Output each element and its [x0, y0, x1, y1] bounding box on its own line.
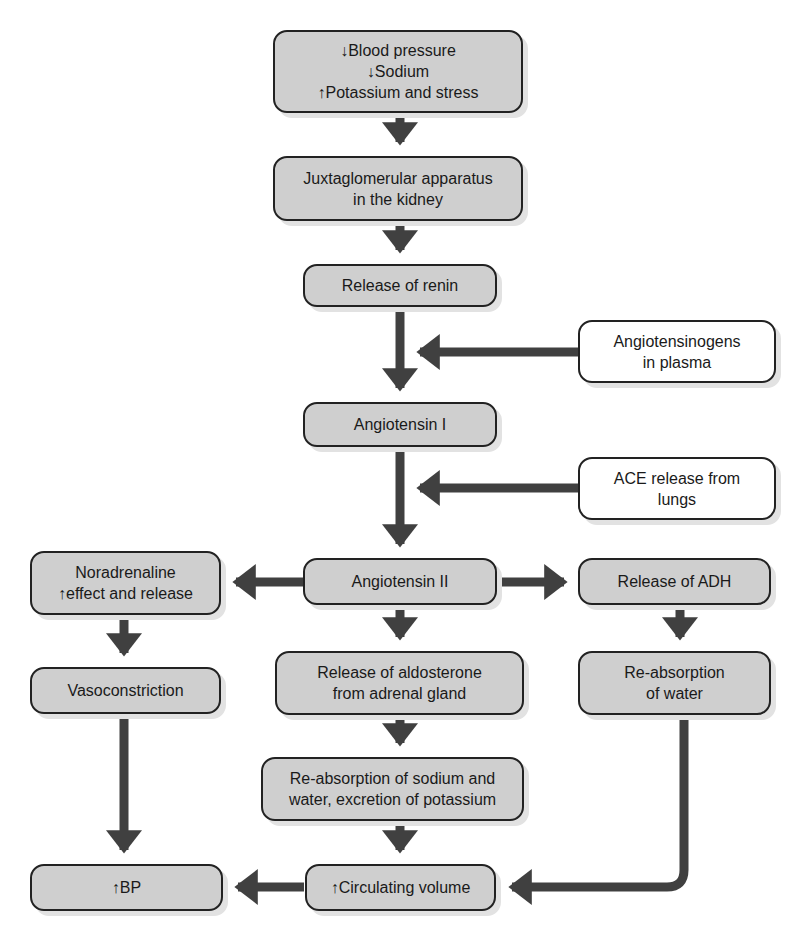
- node-bp: ↑BP: [30, 864, 223, 911]
- node-renin: Release of renin: [303, 264, 497, 307]
- node-angiotensin1: Angiotensin I: [303, 402, 497, 447]
- node-adh: Release of ADH: [578, 558, 771, 605]
- node-sodium-reabsorption: Re-absorption of sodium and water, excre…: [261, 757, 524, 821]
- node-label: Re-absorption of sodium and water, excre…: [289, 768, 496, 810]
- node-label: ACE release from lungs: [614, 468, 740, 510]
- node-label: Angiotensin II: [352, 571, 449, 592]
- node-juxtaglomerular: Juxtaglomerular apparatus in the kidney: [273, 156, 523, 221]
- node-circulating-volume: ↑Circulating volume: [305, 864, 496, 911]
- node-label: Re-absorption of water: [624, 662, 725, 704]
- node-label: Noradrenaline ↑effect and release: [58, 562, 193, 604]
- node-noradrenaline: Noradrenaline ↑effect and release: [30, 551, 221, 615]
- node-label: Juxtaglomerular apparatus in the kidney: [303, 168, 492, 210]
- node-label: Release of aldosterone from adrenal glan…: [317, 662, 482, 704]
- node-ace: ACE release from lungs: [578, 457, 776, 520]
- node-angiotensin2: Angiotensin II: [303, 558, 497, 605]
- node-water-reabsorption: Re-absorption of water: [578, 651, 771, 715]
- node-label: Vasoconstriction: [67, 680, 183, 701]
- node-vasoconstriction: Vasoconstriction: [30, 667, 221, 714]
- node-label: Angiotensin I: [354, 414, 447, 435]
- node-label: ↓Blood pressure ↓Sodium ↑Potassium and s…: [318, 40, 479, 103]
- node-label: ↑Circulating volume: [331, 877, 471, 898]
- node-angiotensinogens: Angiotensinogens in plasma: [578, 320, 776, 383]
- node-label: Release of renin: [342, 275, 459, 296]
- node-trigger: ↓Blood pressure ↓Sodium ↑Potassium and s…: [273, 30, 523, 113]
- node-label: Angiotensinogens in plasma: [613, 331, 740, 373]
- node-aldosterone: Release of aldosterone from adrenal glan…: [275, 651, 524, 715]
- arrow-water-to-volume: [512, 716, 684, 887]
- node-label: ↑BP: [112, 877, 141, 898]
- node-label: Release of ADH: [618, 571, 732, 592]
